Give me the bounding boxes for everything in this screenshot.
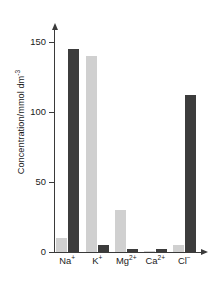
bar-k-intracellular [86, 56, 97, 252]
x-axis-label-base: Ca [145, 255, 157, 266]
bar-cl-intracellular [173, 245, 184, 252]
y-axis-label-exponent: -3 [14, 70, 21, 76]
bar-ca-extracellular [156, 249, 167, 252]
bar-na-intracellular [56, 238, 67, 252]
x-axis-label-base: Mg [116, 255, 129, 266]
x-axis-line [54, 252, 202, 253]
bar-na-extracellular [68, 49, 79, 252]
y-axis-arrow-icon [52, 23, 58, 30]
x-axis-label-charge: − [187, 254, 191, 261]
figure-caption [10, 274, 205, 281]
y-axis-tick-mark [49, 42, 55, 43]
bar-mg-extracellular [127, 249, 138, 252]
x-axis-label-base: Cl [178, 255, 187, 266]
y-axis-line [54, 30, 55, 252]
y-axis-tick-label: 50 [6, 177, 46, 186]
y-axis-tick-label: 0 [6, 247, 46, 256]
bar-chart: Concentration/mmol dm-3 050100150 Na+K+M… [0, 0, 215, 281]
bar-mg-intracellular [115, 210, 126, 252]
y-axis-tick-mark [49, 252, 55, 253]
bar-ca-intracellular [144, 251, 155, 252]
y-axis-tick-mark [49, 182, 55, 183]
x-axis-label-cl: Cl− [164, 256, 204, 265]
x-axis-arrow-icon [201, 249, 208, 255]
y-axis-tick-label: 100 [6, 107, 46, 116]
y-axis-tick-label: 150 [6, 37, 46, 46]
x-axis-label-charge: + [71, 254, 75, 261]
bar-cl-extracellular [185, 95, 196, 252]
x-axis-label-charge: + [98, 254, 102, 261]
bar-k-extracellular [98, 245, 109, 252]
x-axis-label-base: Na [59, 255, 71, 266]
y-axis-tick-mark [49, 112, 55, 113]
y-axis-label-text: Concentration/mmol dm [16, 76, 26, 175]
